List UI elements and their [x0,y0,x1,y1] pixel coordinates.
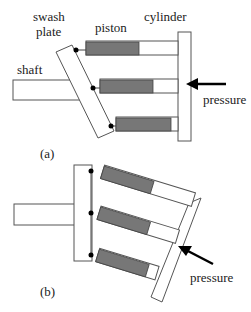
cylinder-a [178,32,191,141]
label-swash: swash [33,9,65,24]
panel-b: pressure (b) [14,165,234,302]
pressure-arrow-b [186,250,213,264]
label-cylinder: cylinder [144,9,187,24]
piston-2-b [97,207,151,235]
caption-a: (a) [40,146,54,161]
swash-plate-diagram: swash plate piston cylinder shaft pressu… [0,0,251,312]
label-plate: plate [36,24,61,39]
piston-3-a [116,118,171,131]
piston-3-b [96,249,150,277]
label-pressure-b: pressure [190,270,234,285]
pin-1-a [74,48,79,53]
label-shaft: shaft [17,62,43,77]
pin-3-b [89,253,94,258]
label-piston: piston [95,20,127,35]
piston-1-a [86,42,139,55]
shaft-b [14,204,75,225]
cylinder-b [151,198,201,302]
piston-1-b [101,166,155,194]
piston-2-a [100,80,153,93]
pin-2-b [89,211,94,216]
pin-2-a [91,86,96,91]
pin-1-b [89,169,94,174]
label-pressure-a: pressure [203,92,247,107]
panel-a: swash plate piston cylinder shaft pressu… [13,9,247,161]
pin-3-a [109,124,114,129]
caption-b: (b) [40,284,55,299]
